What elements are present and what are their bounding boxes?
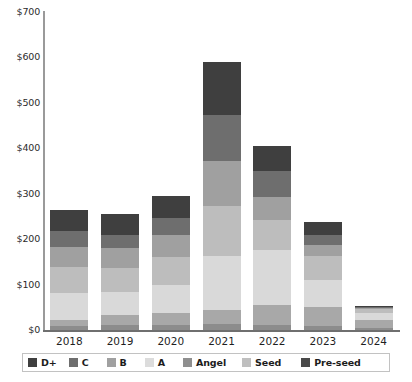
y-axis: $0$100$200$300$400$500$600$700 [0, 12, 40, 330]
bar-segment-a[interactable] [101, 268, 139, 292]
y-axis-tick-label: $100 [0, 280, 40, 290]
x-axis-tick-label-2021: 2021 [196, 335, 247, 347]
legend-item-label: Seed [255, 358, 281, 368]
bar-segment-seed[interactable] [304, 307, 342, 326]
bar-segment-pre-seed[interactable] [101, 325, 139, 330]
stacked-bar-chart: $0$100$200$300$400$500$600$700 201820192… [0, 0, 412, 382]
legend-swatch-icon [69, 358, 78, 367]
bar-segment-a[interactable] [253, 220, 291, 250]
bar-segment-c[interactable] [101, 235, 139, 249]
x-axis-tick-label-2020: 2020 [145, 335, 196, 347]
legend-item-pre-seed[interactable]: Pre-seed [301, 358, 361, 368]
legend-swatch-icon [28, 358, 37, 367]
y-axis-tick-label: $500 [0, 98, 40, 108]
bar-segment-angel[interactable] [152, 285, 190, 313]
bar-segment-pre-seed[interactable] [253, 325, 291, 330]
bar-segment-dplus[interactable] [152, 196, 190, 218]
bar-group-2018[interactable] [50, 210, 88, 330]
x-axis-tick-label-2022: 2022 [247, 335, 298, 347]
bar-segment-dplus[interactable] [203, 62, 241, 115]
bar-segment-a[interactable] [50, 267, 88, 292]
legend-swatch-icon [242, 358, 251, 367]
bar-segment-a[interactable] [203, 206, 241, 257]
y-axis-tick-label: $700 [0, 7, 40, 17]
legend-item-label: A [158, 358, 165, 368]
legend-item-b[interactable]: B [107, 358, 127, 368]
bar-segment-pre-seed[interactable] [304, 326, 342, 330]
bar-segment-a[interactable] [304, 256, 342, 280]
bar-segment-angel[interactable] [50, 293, 88, 320]
y-axis-tick-label: $0 [0, 325, 40, 335]
chart-legend: D+CBAAngelSeedPre-seed [22, 353, 390, 372]
bar-segment-b[interactable] [203, 161, 241, 206]
legend-swatch-icon [183, 358, 192, 367]
bar-group-2021[interactable] [203, 62, 241, 330]
y-axis-tick-label: $300 [0, 189, 40, 199]
bar-segment-pre-seed[interactable] [152, 325, 190, 330]
bar-segment-angel[interactable] [203, 256, 241, 310]
bar-segment-angel[interactable] [304, 280, 342, 307]
y-axis-tick-label: $200 [0, 234, 40, 244]
bar-group-2020[interactable] [152, 196, 190, 330]
bar-segment-pre-seed[interactable] [355, 328, 393, 330]
bar-segment-dplus[interactable] [101, 214, 139, 234]
bar-segment-seed[interactable] [355, 320, 393, 328]
bar-segment-dplus[interactable] [304, 222, 342, 235]
bar-segment-pre-seed[interactable] [203, 324, 241, 330]
x-axis-tick-label-2019: 2019 [95, 335, 146, 347]
bar-segment-angel[interactable] [101, 292, 139, 316]
legend-item-label: D+ [41, 358, 57, 368]
legend-item-c[interactable]: C [69, 358, 89, 368]
legend-item-label: C [82, 358, 89, 368]
bar-segment-b[interactable] [152, 235, 190, 258]
bar-group-2019[interactable] [101, 214, 139, 330]
bar-segment-c[interactable] [253, 171, 291, 196]
bar-segment-c[interactable] [50, 231, 88, 247]
bar-segment-seed[interactable] [203, 310, 241, 324]
x-axis-line [43, 330, 400, 332]
plot-area [44, 12, 399, 330]
bar-segment-pre-seed[interactable] [50, 326, 88, 330]
legend-item-label: Pre-seed [314, 358, 361, 368]
legend-item-seed[interactable]: Seed [242, 358, 281, 368]
bar-group-2024[interactable] [355, 306, 393, 330]
x-axis: 2018201920202021202220232024 [44, 333, 399, 351]
bar-segment-seed[interactable] [101, 315, 139, 325]
legend-swatch-icon [107, 358, 116, 367]
x-axis-tick-label-2018: 2018 [44, 335, 95, 347]
legend-swatch-icon [145, 358, 154, 367]
y-axis-tick-label: $400 [0, 143, 40, 153]
legend-item-label: B [120, 358, 127, 368]
legend-swatch-icon [301, 358, 310, 367]
bar-segment-c[interactable] [304, 235, 342, 245]
bar-group-2023[interactable] [304, 222, 342, 330]
bar-segment-dplus[interactable] [50, 210, 88, 231]
bar-segment-b[interactable] [304, 245, 342, 257]
bar-segment-seed[interactable] [152, 313, 190, 325]
legend-item-a[interactable]: A [145, 358, 165, 368]
legend-item-label: Angel [196, 358, 226, 368]
bar-segment-b[interactable] [50, 247, 88, 267]
legend-item-angel[interactable]: Angel [183, 358, 226, 368]
bar-segment-seed[interactable] [253, 305, 291, 326]
bar-segment-c[interactable] [152, 218, 190, 234]
bar-segment-b[interactable] [253, 197, 291, 221]
bar-group-2022[interactable] [253, 146, 291, 330]
x-axis-tick-label-2024: 2024 [348, 335, 399, 347]
bar-segment-dplus[interactable] [253, 146, 291, 171]
y-axis-tick-label: $600 [0, 52, 40, 62]
bar-segment-b[interactable] [101, 248, 139, 268]
bar-segment-c[interactable] [203, 115, 241, 161]
x-axis-tick-label-2023: 2023 [298, 335, 349, 347]
legend-item-dplus[interactable]: D+ [28, 358, 57, 368]
bar-segment-angel[interactable] [253, 250, 291, 305]
bar-segment-a[interactable] [152, 257, 190, 284]
